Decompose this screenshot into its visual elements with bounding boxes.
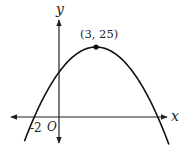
y-axis-label: y [55, 1, 65, 17]
parabola-graph: y x O (3, 25) -2 [0, 0, 185, 149]
vertex-label: (3, 25) [80, 27, 118, 41]
neg-two-intercept-label: -2 [30, 121, 42, 135]
x-axis-label: x [171, 108, 179, 124]
origin-label: O [47, 120, 57, 134]
vertex-point [93, 44, 98, 49]
